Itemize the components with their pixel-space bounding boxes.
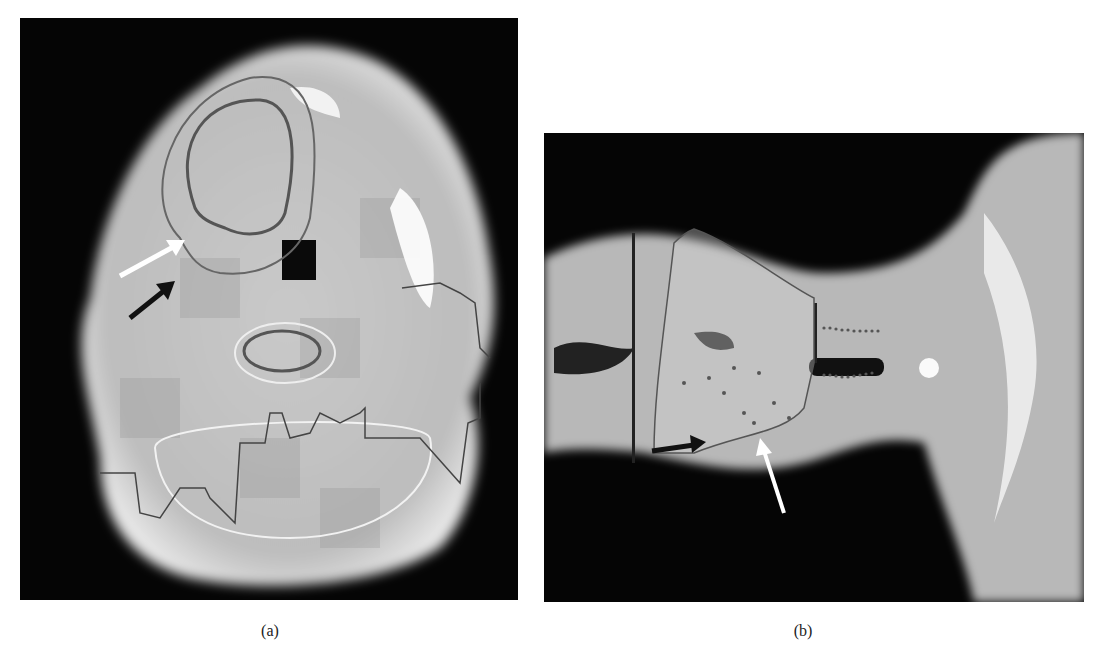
- ct-image-coronal: [544, 133, 1084, 602]
- ct-axial-graphic: [20, 18, 518, 600]
- airway: [282, 240, 316, 280]
- panel-label-a: (a): [240, 622, 300, 640]
- ct-image-axial: [20, 18, 518, 600]
- panel-label-b: (b): [773, 622, 833, 640]
- ct-coronal-graphic: [544, 133, 1084, 602]
